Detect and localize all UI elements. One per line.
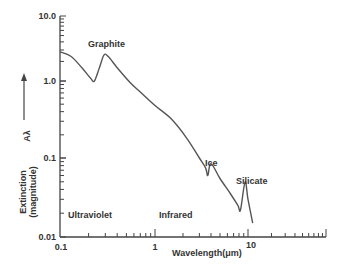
annotation-ice: Ice <box>205 158 218 168</box>
y-tick-label-1: 1.0 <box>43 76 56 86</box>
svg-text:Aλ: Aλ <box>22 130 32 142</box>
annotation-graphite: Graphite <box>88 39 125 49</box>
x-axis-title: Wavelength(μm) <box>172 248 242 258</box>
x-tick-label-10: 10 <box>246 240 256 250</box>
annotation-ultraviolet: Ultraviolet <box>68 210 112 220</box>
y-axis-title-line1: Extinction <box>18 170 28 214</box>
y-tick-label-0.01: 0.01 <box>38 232 56 242</box>
y-tick-label-0.1: 0.1 <box>43 153 56 163</box>
y-axis-title: Extinction (magnitude) <box>18 166 38 218</box>
extinction-chart: 10.0 1.0 0.1 0.01 0.1 1 10 Wavelength(μm… <box>0 0 342 269</box>
y-axis-ticks <box>60 16 66 237</box>
annotation-infrared: Infrared <box>159 210 193 220</box>
y-tick-label-10: 10.0 <box>38 11 56 21</box>
extinction-curve <box>60 52 253 223</box>
x-axis-ticks <box>89 229 326 237</box>
y-axis-symbol: Aλ <box>22 130 32 142</box>
arrow-up-icon <box>21 73 27 81</box>
y-axis-title-line2: (magnitude) <box>28 166 38 218</box>
annotation-silicate: Silicate <box>236 176 268 186</box>
x-tick-label-0.1: 0.1 <box>55 242 68 252</box>
x-tick-label-1: 1 <box>152 242 157 252</box>
